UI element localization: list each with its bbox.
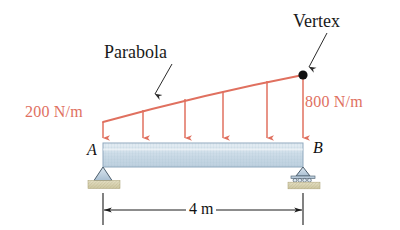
- support-label-a: A: [87, 142, 97, 158]
- vertex-leader-line: [309, 33, 327, 67]
- parabolic-load-curve: [103, 75, 303, 122]
- beam: [103, 143, 303, 167]
- load-label-right: 800 N/m: [305, 94, 363, 110]
- support-roller-b: [288, 167, 320, 189]
- vertex-annotation: Vertex: [293, 12, 340, 30]
- load-label-left: 200 N/m: [25, 104, 83, 120]
- load-arrows: [103, 75, 303, 138]
- span-dimension-label: 4 m: [186, 201, 216, 217]
- support-pin-a: [88, 167, 120, 189]
- parabola-leader-line: [155, 64, 172, 94]
- support-label-b: B: [313, 140, 323, 156]
- parabola-annotation: Parabola: [104, 43, 167, 61]
- vertex-point: [298, 70, 307, 79]
- beam-load-diagram: 200 N/m 800 N/m Parabola Vertex A B 4 m: [0, 0, 400, 230]
